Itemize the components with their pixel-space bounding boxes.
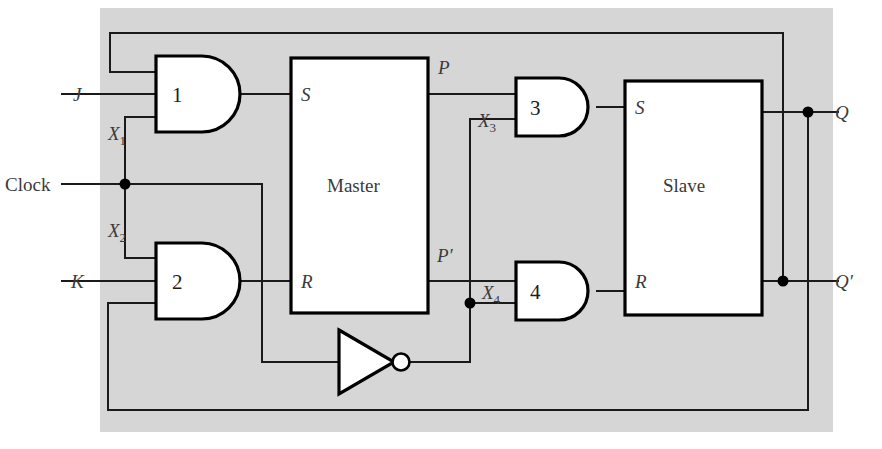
input-label-k: K	[70, 271, 85, 292]
circuit-svg: 1 2 3 4 Master S R	[0, 0, 882, 449]
signal-label-p: P	[437, 57, 450, 78]
circuit-diagram-figure: 1 2 3 4 Master S R	[0, 0, 882, 449]
output-label-q: Q	[835, 102, 849, 123]
junction-dot-x4	[465, 298, 476, 309]
master-port-r-label: R	[300, 271, 313, 292]
inverter-bubble-icon	[393, 354, 410, 371]
slave-port-r-label: R	[634, 271, 647, 292]
output-label-q-not: Q′	[835, 271, 854, 292]
gate1-body[interactable]	[156, 56, 240, 132]
gate3-and[interactable]: 3	[516, 78, 588, 136]
gate2-label: 2	[172, 270, 183, 294]
junction-dot-qnot	[778, 276, 789, 287]
gate2-and[interactable]: 2	[156, 243, 240, 319]
master-block-label: Master	[327, 175, 380, 196]
master-block[interactable]: Master S R	[291, 58, 428, 313]
junction-dot-q	[803, 107, 814, 118]
master-port-s-label: S	[301, 84, 311, 105]
junction-dot-clock	[120, 179, 131, 190]
gate4-body[interactable]	[516, 262, 588, 320]
slave-block[interactable]: Slave S R	[625, 81, 762, 315]
gate3-body[interactable]	[516, 78, 588, 136]
gate1-label: 1	[172, 83, 183, 107]
gate2-body[interactable]	[156, 243, 240, 319]
gate4-label: 4	[530, 280, 541, 304]
gate1-and[interactable]: 1	[156, 56, 240, 132]
slave-port-s-label: S	[635, 97, 645, 118]
gate3-label: 3	[530, 96, 541, 120]
input-label-clock: Clock	[5, 174, 51, 195]
slave-block-label: Slave	[663, 175, 705, 196]
gate4-and[interactable]: 4	[516, 262, 588, 320]
signal-label-p-not: P′	[436, 245, 454, 266]
